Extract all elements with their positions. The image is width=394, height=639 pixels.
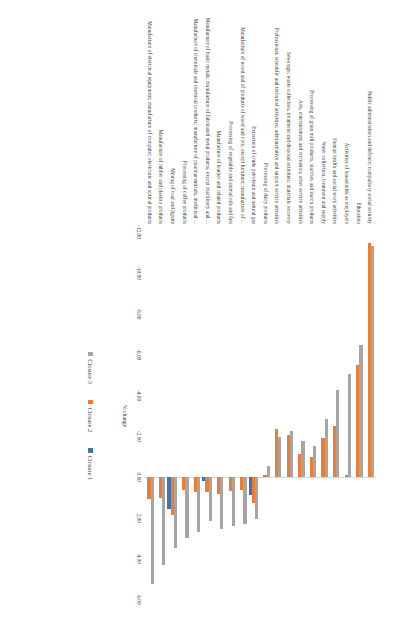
bar-closure-2 [182,477,185,489]
x-tick-label: 4.00 [136,554,142,563]
bar-closure-3 [371,246,374,477]
x-tick-label: 2.00 [136,514,142,523]
bar-closure-2 [205,477,208,491]
legend-label: Closure 3 [87,359,94,384]
category-label: Education [356,202,362,224]
bar-closure-1 [202,477,205,481]
category-label: Manufacture of electrical equipment; man… [147,21,153,224]
category-label: Sewerage; waste collection, treatment an… [286,52,292,224]
bar-closure-3 [290,431,293,477]
category-label: Mining of coal and lignite [170,168,176,224]
bar-closure-2 [333,426,336,477]
category-label: Human health and social work activities [332,138,338,224]
category-label: Arts, entertainment and recreation; othe… [298,100,304,224]
x-axis-ticks: -12.00-10.00-8.00-6.00-4.00-2.000.002.00… [128,232,142,600]
bar-closure-3 [220,477,223,529]
bar-closure-2 [171,477,174,515]
category-label: Manufacture of leather and related produ… [216,130,222,224]
category-label: Processing of vegetable and animal oils … [228,121,234,224]
bar-closure-2 [287,435,290,477]
category-label: Public administration and defence; compu… [367,91,373,224]
bar-closure-2 [147,477,150,498]
bar-closure-3 [267,466,270,477]
bar-closure-3 [255,477,258,519]
category-label: Processing of dairy products [263,163,269,224]
category-label: Manufacture of chemicals and chemical pr… [193,19,199,224]
bar-closure-2 [217,477,220,493]
bar-closure-2 [310,457,313,477]
bar-closure-2 [356,365,359,477]
bar-chart-figure: Public administration and defence; compu… [0,0,394,639]
legend-swatch-icon [88,352,93,357]
legend-label: Closure 2 [87,407,94,432]
bar-closure-3 [301,441,304,478]
bar-closure-2 [275,429,278,477]
category-label: Activities of households as employers [344,143,350,224]
bar-closure-2 [159,477,162,497]
category-label: Water collection, treatment and supply [321,142,327,224]
x-tick-label: 0.00 [136,473,142,482]
x-tick-label: -2.00 [136,431,142,442]
bar-closure-3 [162,477,165,565]
x-tick-label: -8.00 [136,308,142,319]
bar-closure-3 [209,477,212,521]
bar-closure-3 [359,345,362,477]
bar-closure-3 [336,390,339,477]
bar-closure-3 [232,477,235,526]
bar-closure-2 [240,477,243,489]
bar-closure-2 [229,477,232,490]
legend-item[interactable]: Closure 3 [87,352,94,384]
legend-item[interactable]: Closure 1 [87,448,94,480]
legend-swatch-icon [88,448,93,453]
rotated-figure-container: Public administration and defence; compu… [0,0,394,639]
x-tick-label: 6.00 [136,595,142,604]
category-label: Professional, scientific and technical a… [274,28,280,224]
x-tick-label: -10.00 [136,266,142,280]
bar-closure-3 [348,374,351,477]
legend-swatch-icon [88,400,93,405]
zero-baseline [144,477,376,478]
category-label: Manufacture of rubber and plastics produ… [158,130,164,224]
chart-legend: Closure 3Closure 2Closure 1 [87,232,94,600]
bar-closure-3 [243,477,246,524]
x-tick-label: -12.00 [136,225,142,239]
bar-closure-2 [194,477,197,491]
category-label: Manufacture of wood and of products of w… [240,27,246,224]
bar-closure-2 [345,475,348,477]
legend-label: Closure 1 [87,456,94,481]
bar-closure-3 [151,477,154,583]
bar-closure-1 [167,477,170,509]
bar-closure-2 [252,477,255,503]
category-label: Processing of coffee products [182,161,188,224]
category-label: Extraction of crude petroleum and natura… [251,126,257,224]
bar-closure-3 [185,477,188,537]
category-label: Manufacture of basic metals; manufacture… [205,18,211,224]
bar-closure-3 [174,477,177,548]
bar-closure-2 [321,438,324,477]
bar-closure-3 [325,419,328,477]
bar-closure-3 [197,477,200,531]
bar-closure-2 [298,454,301,478]
category-axis-labels: Public administration and defence; compu… [144,0,376,228]
bar-closure-2 [368,243,371,477]
bar-closure-3 [278,437,281,477]
plot-area [144,232,376,600]
x-axis-title: % change [122,232,128,600]
category-label: Processing of grain mill products, starc… [309,90,315,224]
legend-item[interactable]: Closure 2 [87,400,94,432]
x-tick-label: -4.00 [136,390,142,401]
bar-closure-2 [263,475,266,477]
bar-closure-3 [313,446,316,478]
bar-closure-1 [249,477,252,494]
x-tick-label: -6.00 [136,349,142,360]
